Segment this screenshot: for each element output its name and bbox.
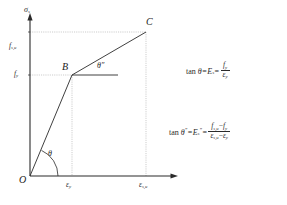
- point-label-C: C: [146, 17, 153, 27]
- formula2-tan-word: tan: [169, 128, 179, 137]
- point-label-O: O: [19, 175, 26, 185]
- formula-tan-theta-double-prime: tan θ″ = Es″ = fs,u−fy εs,u−εy: [169, 123, 231, 141]
- y-tick-label-fsu-subscript: s,u: [11, 45, 16, 50]
- formula2-fraction: fs,u−fy εs,u−εy: [208, 122, 230, 140]
- formula1-denominator: εy: [221, 70, 230, 80]
- formula2-den-b-subscript: y: [226, 135, 228, 140]
- y-axis-arrowhead: [27, 13, 32, 21]
- formula2-angle-superscript: ″: [185, 127, 187, 133]
- y-axis-title: σs: [24, 6, 30, 14]
- stress-strain-figure: σs fs,u fy εy εs,u O B C θ θ″ tan θ = Es…: [0, 0, 287, 205]
- angle-label-theta-double-prime: θ″: [97, 62, 104, 70]
- y-axis-title-subscript: s: [28, 9, 30, 14]
- formula2-numerator: fs,u−fy: [209, 122, 229, 131]
- formula1-den-subscript: y: [226, 74, 228, 79]
- x-tick-label-epsilon-su-subscript: s,u: [142, 184, 147, 189]
- formula2-den-a-subscript: s,u: [213, 135, 218, 140]
- point-label-B: B: [62, 62, 68, 72]
- x-tick-label-epsilon-y: εy: [66, 181, 71, 189]
- formula1-fraction: fy εy: [221, 61, 230, 79]
- formula1-E-subscript: s: [212, 70, 214, 75]
- formula2-num-b-subscript: y: [225, 126, 227, 131]
- angle-label-theta: θ: [48, 150, 52, 158]
- y-tick-label-fsu: fs,u: [9, 42, 16, 50]
- formula1-equals-2: =: [214, 67, 220, 76]
- formula1-tan-word: tan: [186, 67, 196, 76]
- formula1-num-subscript: y: [225, 65, 227, 70]
- formula2-E-superscript: ″: [199, 127, 201, 133]
- x-tick-label-epsilon-su: εs,u: [139, 181, 147, 189]
- x-axis-arrowhead: [171, 173, 179, 178]
- formula2-denominator: εs,u−εy: [208, 131, 230, 141]
- formula2-equals-2: =: [202, 128, 208, 137]
- angle-label-theta-dp-superscript: ″: [101, 61, 104, 70]
- formula1-numerator: fy: [221, 61, 229, 70]
- formula-tan-theta: tan θ = Es = fy εy: [186, 62, 231, 80]
- stress-strain-diagram-canvas: [0, 0, 287, 205]
- y-tick-label-fy-subscript: y: [16, 73, 18, 78]
- elastic-branch-OB: [30, 75, 72, 176]
- formula2-num-a-subscript: s,u: [213, 126, 218, 131]
- hardening-branch-BC: [72, 32, 146, 75]
- y-tick-label-fy: fy: [14, 70, 18, 78]
- x-tick-label-epsilon-y-subscript: y: [69, 184, 71, 189]
